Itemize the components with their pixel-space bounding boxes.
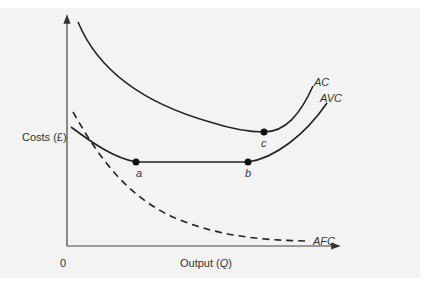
origin-label: 0 <box>60 257 66 269</box>
y-axis-label: Costs (£) <box>22 131 67 143</box>
afc-label: AFC <box>312 235 335 247</box>
point-b <box>245 159 252 166</box>
avc-label: AVC <box>319 92 342 104</box>
point-c-label: c <box>261 137 267 149</box>
x-axis-label: Output (Q) <box>180 257 232 269</box>
avc-curve <box>71 103 327 162</box>
ac-label: AC <box>313 76 329 88</box>
ac-curve <box>78 22 313 132</box>
point-a-label: a <box>136 167 142 179</box>
cost-curves-chart: Costs (£) 0 Output (Q) AC AVC AFC a b c <box>0 0 439 292</box>
point-c <box>261 129 268 136</box>
point-b-label: b <box>245 167 251 179</box>
point-a <box>133 159 140 166</box>
